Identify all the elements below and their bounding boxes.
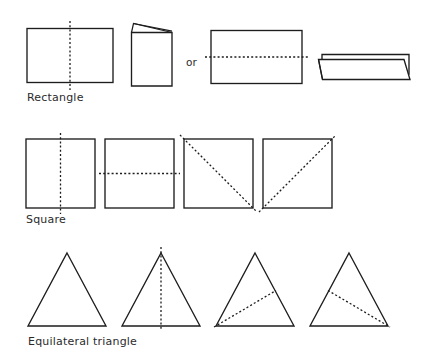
- connector-label-or: or: [186, 56, 197, 68]
- rectangle-folded-vertically: [132, 24, 173, 87]
- folded-card-front-panel: [132, 33, 173, 87]
- diagonal-fold-line: [328, 291, 390, 328]
- triangle-vertical-fold: [122, 247, 200, 331]
- diagonal-fold-line: [259, 135, 336, 212]
- triangle-fold-left-midpoint-to-bottom-right: [310, 253, 390, 327]
- rectangle-folded-horizontally: [319, 55, 411, 80]
- row-equilateral-triangle: Equilateral triangle: [28, 247, 390, 348]
- diagonal-fold-line: [180, 135, 257, 212]
- diagonal-fold-line: [214, 291, 276, 328]
- square-diagonal-fold-tl-br: [180, 135, 257, 212]
- diagram-canvas: or Rectangle: [0, 0, 424, 358]
- triangle-outline: [216, 253, 294, 326]
- folded-card-front-sheet: [319, 60, 411, 80]
- row-label-square: Square: [26, 213, 66, 226]
- square-vertical-fold: [26, 133, 95, 214]
- triangle-outline: [28, 253, 106, 326]
- folded-card-flap-edge: [134, 24, 173, 32]
- row-label-equilateral-triangle: Equilateral triangle: [28, 335, 137, 348]
- triangle-outline: [310, 253, 388, 326]
- row-rectangle: or Rectangle: [27, 21, 410, 104]
- row-label-rectangle: Rectangle: [27, 91, 84, 104]
- square-diagonal-fold-bl-tr: [259, 135, 336, 212]
- row-square: Square: [26, 133, 336, 226]
- square-horizontal-fold: [99, 139, 180, 208]
- triangle-plain: [28, 253, 106, 326]
- rectangle-plain-with-horizontal-fold: [205, 31, 308, 84]
- symmetry-folding-figure: or Rectangle: [0, 0, 424, 358]
- triangle-fold-bottom-left-to-right-midpoint: [214, 253, 294, 327]
- rectangle-plain-with-vertical-fold: [27, 21, 113, 90]
